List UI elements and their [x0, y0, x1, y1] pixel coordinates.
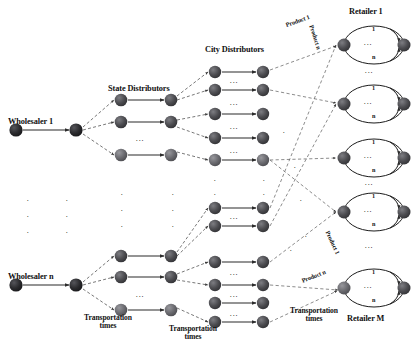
- edges-state-to-city-top: [177, 72, 208, 160]
- state-vdots-1: .: [121, 190, 122, 197]
- node-city-dist: [257, 279, 269, 291]
- wholesaler2-vdots-3: .: [66, 228, 67, 235]
- mid-gap-dots-3: .: [305, 232, 306, 239]
- city-vdots-1: .: [214, 176, 215, 183]
- city-pair-dots-5: . . .: [230, 214, 237, 221]
- retailer-3-arc-bottom: n: [372, 167, 375, 174]
- city-pair-dots-3: . . .: [230, 124, 237, 131]
- tt2-line2: times: [185, 332, 202, 341]
- retailer-4-arc-top: 1: [372, 193, 375, 200]
- retailer-2-arc-top: 1: [372, 85, 375, 92]
- node-city-dist: [209, 220, 221, 232]
- wholesaler-vdots-3: .: [27, 228, 28, 235]
- node-retailer-out: [398, 39, 411, 52]
- node-retailer-in: [338, 98, 351, 111]
- city-distributor-pairs-bottom: [209, 256, 269, 328]
- node-city-dist: [257, 132, 269, 144]
- node-wholesaler-n-sink: [69, 278, 82, 291]
- node-city-dist: [209, 154, 221, 166]
- node-retailer-out: [398, 206, 411, 219]
- retailer-4-center-dots: . . .: [364, 207, 371, 214]
- tt3-line2: times: [306, 314, 323, 323]
- retailer-1-center-dots: . . .: [364, 40, 371, 47]
- mid-gap-dots-1: .: [294, 163, 295, 170]
- node-retailer-in: [338, 39, 351, 52]
- tt1-line2: times: [100, 321, 117, 330]
- label-transportation-times-2: Transportation times: [151, 325, 235, 341]
- state2-vdots-2: .: [172, 206, 173, 213]
- retailer-2-center-dots: . . .: [364, 99, 371, 106]
- label-wholesaler-n: Wholesaler n: [8, 273, 53, 282]
- wholesaler-vdots-1: .: [27, 196, 28, 203]
- city-vdots-2: .: [214, 190, 215, 197]
- state-vdots-2: .: [121, 206, 122, 213]
- city-pair-dots-7: . . .: [230, 292, 237, 299]
- label-retailer-1: Retailer 1: [349, 8, 383, 17]
- wholesaler-vdots-2: .: [27, 212, 28, 219]
- node-city-dist: [257, 316, 269, 328]
- node-city-dist: [209, 279, 221, 291]
- node-city-dist: [209, 256, 221, 268]
- node-city-dist: [209, 108, 221, 120]
- node-retailer-out: [398, 98, 411, 111]
- node-city-dist: [257, 108, 269, 120]
- node-city-dist: [257, 220, 269, 232]
- mid-gap-dots-2: .: [300, 196, 301, 203]
- label-transportation-times-3: Transportation times: [272, 307, 356, 323]
- node-retailer-in: [338, 282, 351, 295]
- state-pair-dots-bottom: . . .: [136, 292, 143, 299]
- node-city-dist: [257, 202, 269, 214]
- node-state-dist: [115, 149, 128, 162]
- retailer-4-arc-bottom: n: [372, 221, 375, 228]
- node-city-dist: [209, 66, 221, 78]
- node-city-dist: [257, 66, 269, 78]
- node-retailer-in: [338, 152, 351, 165]
- retailer-1-arc-bottom: n: [372, 54, 375, 61]
- city2-vdots-1: .: [263, 176, 264, 183]
- city-pair-dots-2: . . .: [230, 100, 237, 107]
- node-city-dist: [257, 297, 269, 309]
- city-distributor-pairs-top: [209, 66, 269, 166]
- retailer-gap-dots-3: . . .: [365, 243, 372, 250]
- node-retailer-in: [338, 206, 351, 219]
- label-city-distributors: City Distributors: [205, 46, 264, 55]
- wholesaler2-vdots-1: .: [66, 196, 67, 203]
- label-state-distributors: State Distributors: [108, 85, 170, 94]
- state-distributor-pairs-bottom: [115, 250, 178, 317]
- node-retailer-out: [398, 152, 411, 165]
- node-state-dist: [165, 149, 178, 162]
- state2-vdots-3: .: [172, 222, 173, 229]
- state-pair-dots-top: . . .: [136, 136, 143, 143]
- node-city-dist: [209, 84, 221, 96]
- retailer-1-arc-top: 1: [372, 26, 375, 33]
- city-distributor-pairs-middle: [209, 202, 269, 232]
- label-wholesaler-1: Wholesaler 1: [8, 118, 53, 127]
- network-diagram: Wholesaler 1 Wholesaler n State Distribu…: [0, 0, 417, 351]
- node-city-dist: [257, 154, 269, 166]
- retailer-gap-dots-1: . . .: [365, 68, 372, 75]
- retailer-m-center-dots: . . .: [364, 283, 371, 290]
- retailer-gap-dots-2: . . .: [365, 180, 372, 187]
- node-state-dist: [115, 116, 128, 129]
- retailer-3-arc-top: 1: [372, 139, 375, 146]
- node-state-dist: [165, 250, 178, 263]
- node-state-dist: [165, 271, 178, 284]
- retailer-m-arc-top: 1: [372, 269, 375, 276]
- city-pair-dots-6: . . .: [230, 270, 237, 277]
- edges-wholesalern-to-state: [83, 256, 114, 310]
- mid-gap-dots-4: .: [290, 246, 291, 253]
- node-city-dist: [257, 84, 269, 96]
- node-city-dist: [209, 297, 221, 309]
- city-pair-dots-1: . . .: [230, 78, 237, 85]
- node-city-dist: [209, 202, 221, 214]
- node-state-dist: [165, 94, 178, 107]
- node-state-dist: [115, 271, 128, 284]
- city-pair-dots-4: . . .: [230, 148, 237, 155]
- node-state-dist: [165, 116, 178, 129]
- node-state-dist: [165, 304, 178, 317]
- retailer-2-arc-bottom: n: [372, 113, 375, 120]
- edges-wholesaler1-to-state: [83, 100, 114, 155]
- mid-gap-dots-5: .: [283, 128, 284, 135]
- node-state-dist: [115, 250, 128, 263]
- state2-vdots-1: .: [172, 190, 173, 197]
